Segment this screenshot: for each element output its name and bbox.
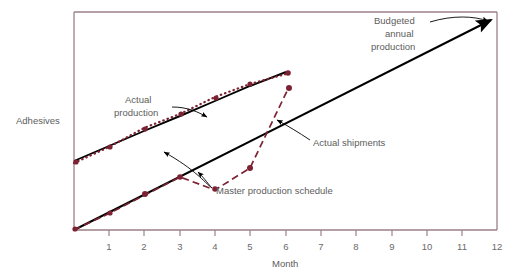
y-axis-label: Adhesives <box>16 115 60 126</box>
series-actual-shipments <box>72 85 292 232</box>
callout-line: production <box>371 41 415 52</box>
x-tick-label: 8 <box>353 241 358 252</box>
x-axis-ticks <box>109 230 462 236</box>
x-tick-label: 6 <box>283 241 288 252</box>
x-tick-label: 1 <box>106 241 111 252</box>
callout-line: annual <box>385 28 414 39</box>
x-tick-labels: 1 2 3 4 5 6 7 8 9 10 11 12 <box>106 241 502 252</box>
x-axis-label: Month <box>272 258 298 269</box>
x-tick-label: 12 <box>492 241 503 252</box>
x-tick-label: 11 <box>457 241 467 252</box>
chart-figure: 1 2 3 4 5 6 7 8 9 10 11 12 Adhesives Mon… <box>0 0 516 278</box>
series-actual-production <box>73 70 290 164</box>
x-tick-label: 9 <box>389 241 394 252</box>
x-tick-label: 3 <box>177 241 182 252</box>
callout-actual-production: Actual production <box>114 94 207 118</box>
callout-line: Budgeted <box>374 15 415 26</box>
x-tick-label: 7 <box>318 241 323 252</box>
data-markers-actual-production <box>73 70 290 164</box>
callout-line: Actual <box>125 94 151 105</box>
data-markers-actual-shipments <box>72 85 292 232</box>
x-tick-label: 10 <box>422 241 433 252</box>
callout-line: Actual shipments <box>313 137 386 148</box>
chart-canvas: 1 2 3 4 5 6 7 8 9 10 11 12 Adhesives Mon… <box>0 0 516 278</box>
callout-budgeted-annual-production: Budgeted annual production <box>371 15 488 52</box>
x-tick-label: 2 <box>141 241 146 252</box>
x-tick-label: 5 <box>247 241 252 252</box>
callout-actual-shipments: Actual shipments <box>277 120 386 148</box>
x-tick-label: 4 <box>212 241 217 252</box>
callout-line: production <box>114 107 158 118</box>
callout-master-production-schedule: Master production schedule <box>164 152 333 196</box>
callout-line: Master production schedule <box>216 185 333 196</box>
